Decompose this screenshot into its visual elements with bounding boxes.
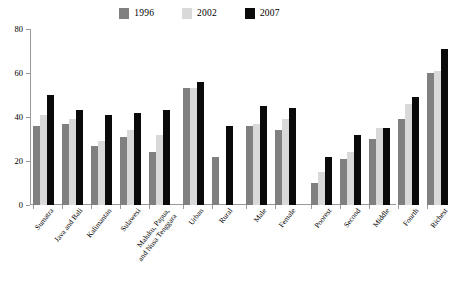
bar-2002 (156, 135, 163, 205)
bar-2002 (282, 119, 289, 205)
bar-1996 (149, 152, 156, 205)
bar-1996 (33, 126, 40, 205)
bar-1996 (91, 146, 98, 205)
x-tick-label: Java and Bali (53, 207, 85, 244)
bar-2007 (76, 110, 83, 205)
bar-2002 (98, 141, 105, 205)
x-tick-label: Urban (187, 207, 205, 227)
bar-1996 (427, 73, 434, 205)
bar-cluster (62, 29, 91, 205)
x-tick-label: Kalimantan (85, 207, 113, 240)
bar-cluster (91, 29, 120, 205)
bar-2007 (226, 126, 233, 205)
bar-2007 (441, 49, 448, 205)
bar-cluster (398, 29, 427, 205)
bar-2007 (105, 115, 112, 205)
bar-cluster (120, 29, 149, 205)
x-tick-label: Male (253, 207, 269, 224)
bar-2007 (260, 106, 267, 205)
bar-group-wealth-quintile (311, 29, 453, 205)
bar-1996 (275, 130, 282, 205)
y-tick-label: 60 (15, 69, 24, 78)
bar-1996 (120, 137, 127, 205)
bars-container (31, 29, 396, 205)
bar-2002 (190, 88, 197, 205)
bar-2002 (434, 71, 441, 205)
bar-cluster (183, 29, 212, 205)
bar-2002 (347, 152, 354, 205)
bar-cluster (275, 29, 304, 205)
x-tick-label: Poorest (313, 207, 334, 230)
bar-2007 (325, 157, 332, 205)
bar-group-residence (183, 29, 241, 205)
bar-2007 (134, 113, 141, 205)
legend-swatch-1996 (119, 8, 129, 19)
bar-2007 (47, 95, 54, 205)
x-axis-labels: SumatraJava and BaliKalimantanSulawesiMa… (31, 207, 396, 287)
bar-2002 (127, 130, 134, 205)
y-axis: 020406080 (0, 29, 30, 205)
y-tick-mark (26, 205, 30, 206)
bar-1996 (62, 124, 69, 205)
bar-1996 (183, 88, 190, 205)
x-tick-label: Sulawesi (119, 207, 142, 234)
y-tick-label: 20 (15, 157, 24, 166)
bar-2002 (69, 119, 76, 205)
y-tick-label: 40 (15, 113, 24, 122)
bar-2007 (412, 97, 419, 205)
legend-swatch-2007 (245, 8, 255, 19)
y-tick-label: 80 (15, 25, 24, 34)
bar-cluster (212, 29, 241, 205)
bar-1996 (369, 139, 376, 205)
x-tick-label: Fourth (402, 207, 421, 228)
legend-label-2007: 2007 (260, 8, 280, 19)
bar-1996 (311, 183, 318, 205)
bar-cluster (33, 29, 62, 205)
bar-2007 (383, 128, 390, 205)
bar-cluster (340, 29, 369, 205)
bar-2007 (163, 110, 170, 205)
x-tick-mark (398, 205, 399, 209)
bar-cluster (246, 29, 275, 205)
y-tick-label: 0 (19, 201, 23, 210)
x-tick-label: Female (277, 207, 297, 230)
x-tick-label: Second (342, 207, 362, 230)
bar-2007 (197, 82, 204, 205)
bar-1996 (246, 126, 253, 205)
bar-group-sex (246, 29, 304, 205)
bar-cluster (311, 29, 340, 205)
bar-2007 (289, 108, 296, 205)
bar-cluster (149, 29, 178, 205)
x-tick-label: Rural (218, 207, 235, 225)
legend-entry-1996: 1996 (119, 8, 154, 19)
bar-2002 (376, 128, 383, 205)
bar-1996 (340, 159, 347, 205)
x-tick-label: Middle (372, 207, 392, 229)
bar-2007 (354, 135, 361, 205)
bar-2002 (40, 115, 47, 205)
legend-entry-2002: 2002 (182, 8, 217, 19)
bar-1996 (212, 157, 219, 205)
bar-1996 (398, 119, 405, 205)
bar-2002 (405, 104, 412, 205)
legend-label-1996: 1996 (134, 8, 154, 19)
bar-group-region (33, 29, 178, 205)
chart-legend: 1996 2002 2007 (0, 4, 399, 22)
bar-2002 (253, 124, 260, 205)
bar-cluster (427, 29, 453, 205)
x-tick-label: Richest (429, 207, 450, 230)
bar-cluster (369, 29, 398, 205)
legend-swatch-2002 (182, 8, 192, 19)
x-tick-label: Sumatra (34, 207, 56, 232)
legend-entry-2007: 2007 (245, 8, 280, 19)
legend-label-2002: 2002 (197, 8, 217, 19)
bar-2002 (318, 172, 325, 205)
x-tick-mark (427, 205, 428, 209)
